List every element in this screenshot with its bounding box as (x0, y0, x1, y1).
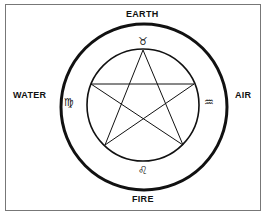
label-air: AIR (235, 90, 251, 100)
taurus-icon: ♉ (138, 35, 148, 48)
label-fire: FIRE (132, 194, 154, 204)
virgo-icon: ♍ (64, 96, 74, 109)
label-water: WATER (13, 90, 46, 100)
leo-icon: ♌ (138, 164, 148, 177)
aquarius-icon: ♒ (204, 96, 214, 109)
pentagram (91, 50, 194, 145)
label-earth: EARTH (126, 9, 159, 19)
pentagram-diagram (0, 0, 266, 216)
